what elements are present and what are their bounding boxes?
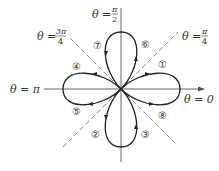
segment-label-1: ①: [158, 59, 167, 70]
svg-text:θ =: θ =: [37, 30, 56, 43]
svg-text:4: 4: [58, 37, 63, 46]
label-theta-pi: θ = π: [10, 83, 41, 96]
segment-label-4: ④: [72, 61, 81, 72]
svg-text:θ =: θ =: [182, 30, 201, 43]
arrow-segment-8: [149, 102, 154, 106]
segment-label-2: ②: [91, 129, 100, 140]
segment-label-3: ③: [141, 129, 150, 140]
arrow-segment-5: [88, 102, 93, 106]
svg-text:4: 4: [202, 37, 207, 46]
svg-text:2: 2: [112, 15, 117, 24]
arrow-segment-2: [104, 115, 108, 120]
segment-label-5: ⑤: [72, 106, 81, 117]
label-theta-3pi-4: θ = 3π 4: [37, 27, 67, 46]
arrow-segment-4: [92, 72, 97, 76]
segment-label-7: ⑦: [93, 40, 102, 51]
svg-text:θ =: θ =: [92, 8, 111, 21]
label-theta-zero: θ = 0: [184, 93, 214, 106]
rose-curve-diagram: θ = 0 θ = π θ = π 2 θ = π 4 θ = 3π 4 ① ②…: [0, 0, 219, 171]
arrow-segment-1: [145, 72, 150, 76]
label-theta-pi-4: θ = π 4: [182, 27, 208, 46]
svg-text:3π: 3π: [56, 27, 67, 36]
arrow-segment-6: [134, 56, 138, 61]
svg-text:π: π: [201, 27, 208, 36]
svg-text:π: π: [111, 5, 118, 14]
label-theta-pi-2: θ = π 2: [92, 5, 118, 24]
arrow-segment-7: [104, 51, 108, 56]
segment-label-6: ⑥: [141, 39, 150, 50]
segment-label-8: ⑧: [158, 110, 167, 121]
